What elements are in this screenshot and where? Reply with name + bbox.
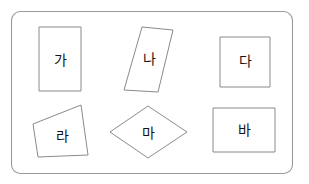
shape-label-ra: 라 — [56, 129, 69, 143]
shape-classification-worksheet: 가 나 다 라 마 바 — [0, 0, 309, 184]
shape-label-ba: 바 — [238, 123, 251, 137]
shape-label-na: 나 — [143, 52, 156, 66]
shape-label-ga: 가 — [54, 53, 67, 67]
shape-label-ma: 마 — [142, 126, 155, 140]
shapes-canvas — [0, 0, 309, 184]
shape-label-da: 다 — [239, 54, 252, 68]
